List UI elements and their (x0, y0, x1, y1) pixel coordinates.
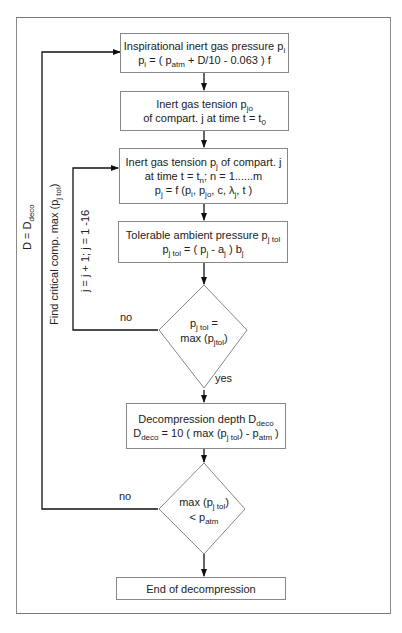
tension-box: Inert gas tension pj of compart. j at ti… (119, 148, 288, 204)
end-label: End of decompression (146, 582, 255, 596)
edge-label-yes: yes (215, 372, 232, 384)
tension-line1: Inert gas tension pj of compart. j (126, 155, 282, 169)
decision-end-text: max (pj tol) < patm (164, 495, 244, 525)
end-of-decompression-box: End of decompression (116, 577, 286, 600)
inner-loop-label: j = j + 1; j = 1 -16 (79, 210, 91, 292)
decompression-depth-formula: Ddeco = 10 ( max (pj tol) - patm ) (133, 426, 279, 440)
edge-label-no-2: no (119, 490, 131, 502)
initial-tension-box: Inert gas tension pjo of compart. j at t… (120, 91, 289, 131)
tension-line2: at time t = tn; n = 1......m (145, 169, 263, 183)
decompression-depth-box: Decompression depth Ddeco Ddeco = 10 ( m… (126, 403, 286, 449)
edge-label-no-1: no (120, 311, 132, 323)
initial-tension-title: Inert gas tension pjo (156, 97, 253, 111)
decision-max-text: pj tol = max (pjtol) (164, 316, 244, 346)
find-critical-label: Find critical comp. max (pj tol) (48, 184, 60, 325)
tolerable-title: Tolerable ambient pressure pj tol (126, 228, 280, 242)
inspirational-pressure-box: Inspirational inert gas pressure pi pi =… (120, 33, 289, 73)
inspirational-title: Inspirational inert gas pressure pi (124, 39, 285, 53)
tolerable-formula: pj tol = ( pj - aj ) bj (162, 242, 243, 256)
inspirational-formula: pi = ( patm + D/10 - 0.063 ) f (138, 53, 271, 67)
decompression-depth-title: Decompression depth Ddeco (138, 412, 273, 426)
tension-formula: pj = f (pi, pjo, c, λj, t ) (155, 183, 253, 197)
tolerable-pressure-box: Tolerable ambient pressure pj tol pj tol… (118, 221, 288, 263)
initial-tension-time: of compart. j at time t = t0 (143, 111, 266, 125)
outer-loop-label: D = Ddeco (21, 204, 33, 250)
